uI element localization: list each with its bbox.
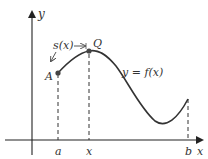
tick-b-label: b <box>185 145 192 158</box>
arc-arrow-left <box>51 52 56 61</box>
curve-f <box>58 51 188 124</box>
x-axis-label: x <box>197 145 204 158</box>
tick-a-label: a <box>55 145 62 158</box>
point-q <box>86 48 91 53</box>
diagram-canvas: y x s(x) Q A y = f(x) a x b <box>0 0 208 159</box>
point-a-label: A <box>44 70 53 83</box>
point-a <box>55 70 60 75</box>
y-axis-label: y <box>37 7 45 21</box>
curve-label: y = f(x) <box>121 66 163 79</box>
point-q-label: Q <box>93 37 102 50</box>
tick-x-label: x <box>86 145 93 158</box>
arc-length-label: s(x) <box>53 39 73 52</box>
